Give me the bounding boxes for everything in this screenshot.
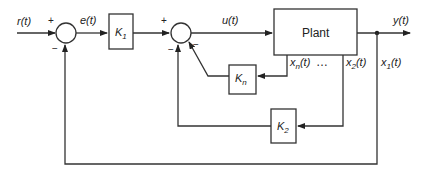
sum2-minus-diag: −: [193, 39, 199, 50]
xn-label: xn(t): [289, 56, 311, 71]
plant-label: Plant: [302, 26, 330, 40]
x2-label: x2(t): [345, 56, 367, 71]
block-diagram: r(t) + − e(t) K1 + − − u(t) Plant y(t): [0, 0, 425, 171]
summing-junction-1: + −: [48, 15, 76, 54]
output-signal: y(t): [357, 14, 410, 35]
sum1-minus: −: [52, 43, 58, 54]
u-label: u(t): [222, 14, 239, 26]
sum2-minus-bottom: −: [168, 44, 174, 55]
ellipsis: …: [316, 55, 328, 69]
k1-block: K1: [109, 14, 133, 49]
x2-feedback-path: x2(t) K2: [178, 45, 367, 143]
x1-label: x1(t): [380, 56, 402, 71]
error-signal: e(t): [76, 14, 107, 33]
plant-block: Plant: [274, 9, 357, 55]
e-label: e(t): [80, 14, 97, 26]
control-signal: u(t): [191, 14, 272, 33]
y-label: y(t): [392, 14, 409, 26]
sum2-plus: +: [161, 15, 167, 26]
r-label: r(t): [17, 15, 31, 27]
sum1-plus: +: [48, 15, 54, 26]
